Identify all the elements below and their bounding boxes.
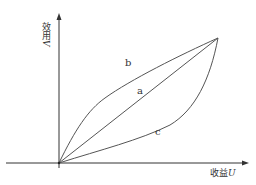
utility-curve-chart bbox=[0, 0, 256, 185]
y-axis-label-text: 效用 bbox=[41, 22, 51, 40]
x-axis-label-var: U bbox=[228, 168, 236, 178]
curve-label-a: a bbox=[137, 85, 143, 96]
x-axis-label: 收益U bbox=[210, 166, 236, 179]
curve-label-b: b bbox=[125, 57, 131, 68]
x-axis-label-text: 收益 bbox=[210, 168, 228, 178]
y-axis-label-var: V bbox=[41, 40, 51, 47]
curve-label-c: c bbox=[155, 126, 161, 137]
y-axis-label: 效用V bbox=[40, 22, 53, 47]
y-axis-arrow-icon bbox=[57, 13, 62, 20]
x-axis-arrow-icon bbox=[242, 161, 249, 166]
origin-point bbox=[58, 162, 60, 164]
curve-a-linear bbox=[59, 38, 218, 163]
